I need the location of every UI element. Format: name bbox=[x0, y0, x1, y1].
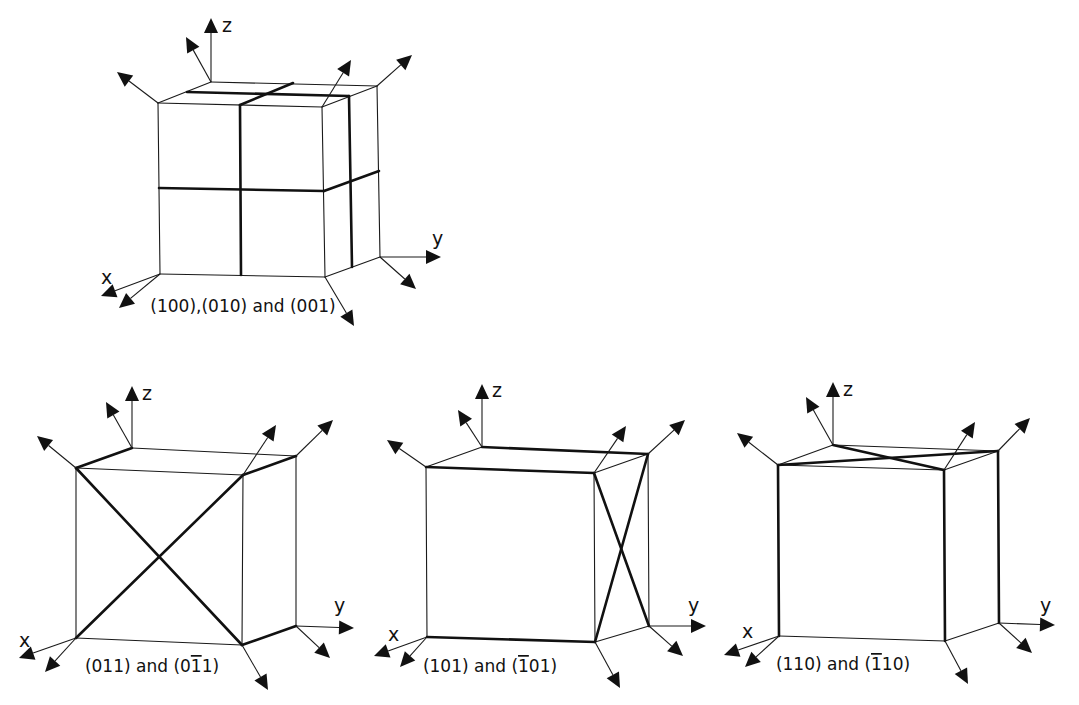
normal-arrow bbox=[380, 257, 416, 289]
arrowhead-icon bbox=[961, 422, 975, 438]
cube-edge bbox=[242, 475, 243, 645]
axis-z-arrow: z bbox=[475, 379, 502, 447]
arrow-shaft bbox=[813, 410, 833, 445]
arrowhead-icon bbox=[806, 397, 819, 414]
cube-100-010-001-figure: zyx(100),(010) and (001) bbox=[101, 14, 443, 326]
arrowhead-icon bbox=[262, 425, 276, 441]
axis-y-arrow: y bbox=[649, 594, 706, 633]
normal-arrow bbox=[998, 418, 1030, 451]
normal-arrow bbox=[117, 72, 158, 103]
plane-trace bbox=[482, 447, 648, 454]
arrow-shaft bbox=[49, 446, 76, 468]
arrow-shaft bbox=[129, 81, 158, 103]
axis-x-arrow: x bbox=[724, 620, 779, 657]
arrowhead-icon bbox=[106, 402, 119, 419]
arrow-shaft bbox=[595, 642, 613, 675]
arrowhead-icon bbox=[426, 250, 441, 264]
arrow-shaft bbox=[649, 626, 672, 646]
cube-edge bbox=[594, 473, 595, 642]
normal-arrow bbox=[243, 425, 276, 475]
arrowhead-icon bbox=[117, 72, 133, 87]
normal-arrow bbox=[296, 420, 333, 456]
arrowhead-icon bbox=[400, 651, 415, 667]
arrowhead-icon bbox=[400, 274, 416, 289]
axis-y-arrow: y bbox=[380, 227, 443, 264]
normal-arrow bbox=[242, 645, 268, 690]
plane-caption: (110) and (110) bbox=[776, 654, 910, 674]
arrowhead-icon bbox=[125, 386, 139, 401]
cube-edge bbox=[426, 467, 427, 637]
cube-edge bbox=[594, 454, 648, 473]
normal-arrow bbox=[387, 440, 426, 467]
arrow-shaft bbox=[999, 623, 1040, 624]
plane-trace bbox=[426, 467, 594, 473]
arrow-shaft bbox=[242, 645, 260, 677]
normal-arrow bbox=[37, 436, 76, 468]
cube-011-figure: zyx(011) and (011) bbox=[19, 382, 354, 690]
arrowhead-icon bbox=[607, 671, 620, 688]
arrowhead-icon bbox=[339, 620, 354, 634]
normal-arrow bbox=[458, 410, 482, 447]
normal-arrow bbox=[806, 397, 833, 445]
arrowhead-icon bbox=[826, 382, 840, 397]
cube-edge bbox=[595, 626, 649, 642]
plane-trace bbox=[76, 475, 243, 638]
plane-trace bbox=[944, 470, 945, 641]
arrowhead-icon bbox=[254, 674, 268, 690]
arrowhead-icon bbox=[612, 426, 626, 442]
normal-arrow bbox=[322, 60, 351, 107]
arrowhead-icon bbox=[955, 667, 968, 684]
axis-z-arrow: z bbox=[125, 382, 152, 448]
arrow-shaft bbox=[322, 73, 343, 107]
plane-trace bbox=[427, 637, 595, 642]
cube-edge bbox=[945, 623, 999, 641]
axis-label-x: x bbox=[101, 266, 112, 288]
arrow-shaft bbox=[945, 641, 961, 671]
cube-edge bbox=[648, 454, 649, 626]
cube-edge bbox=[132, 448, 296, 456]
arrow-shaft bbox=[296, 626, 339, 627]
arrowhead-icon bbox=[37, 436, 53, 451]
axis-y-arrow: y bbox=[999, 594, 1055, 631]
arrow-shaft bbox=[399, 449, 426, 467]
plane-trace bbox=[243, 456, 296, 475]
axis-x-arrow: x bbox=[374, 623, 427, 658]
arrowhead-icon bbox=[737, 433, 753, 448]
arrowhead-icon bbox=[337, 60, 351, 76]
arrowhead-icon bbox=[387, 440, 403, 454]
axis-x-arrow: x bbox=[19, 629, 76, 660]
normal-arrow bbox=[296, 626, 330, 658]
plane-trace bbox=[998, 451, 999, 623]
arrow-shaft bbox=[131, 274, 160, 298]
arrow-shaft bbox=[594, 438, 618, 473]
plane-caption: (100),(010) and (001) bbox=[150, 296, 335, 316]
arrowhead-icon bbox=[475, 384, 489, 399]
axis-label-y: y bbox=[334, 594, 345, 616]
arrow-shaft bbox=[380, 257, 405, 279]
normal-arrow bbox=[594, 426, 626, 473]
cube-101-figure: zyx(101) and (101) bbox=[374, 379, 706, 688]
normal-arrow bbox=[106, 402, 132, 448]
arrowhead-icon bbox=[204, 18, 218, 33]
plane-trace bbox=[76, 448, 132, 468]
normal-arrow bbox=[737, 433, 778, 465]
axis-label-y: y bbox=[432, 227, 443, 249]
plane-trace bbox=[778, 465, 779, 636]
arrow-shaft bbox=[296, 430, 322, 456]
arrowhead-icon bbox=[691, 619, 706, 633]
arrow-shaft bbox=[749, 442, 778, 465]
plane-caption: (011) and (011) bbox=[85, 656, 219, 676]
normal-arrow bbox=[945, 641, 968, 684]
axis-label-z: z bbox=[843, 378, 853, 400]
axis-label-x: x bbox=[388, 623, 399, 645]
normal-arrow bbox=[999, 623, 1032, 653]
cube-edge bbox=[426, 447, 482, 467]
axis-z-arrow: z bbox=[826, 378, 853, 445]
normal-arrow bbox=[944, 422, 975, 470]
cube-edge bbox=[76, 638, 242, 645]
cube-edge bbox=[779, 636, 945, 641]
arrow-shaft bbox=[193, 50, 211, 82]
normal-arrow bbox=[648, 420, 685, 454]
arrow-shaft bbox=[115, 274, 160, 291]
arrow-shaft bbox=[377, 65, 401, 86]
